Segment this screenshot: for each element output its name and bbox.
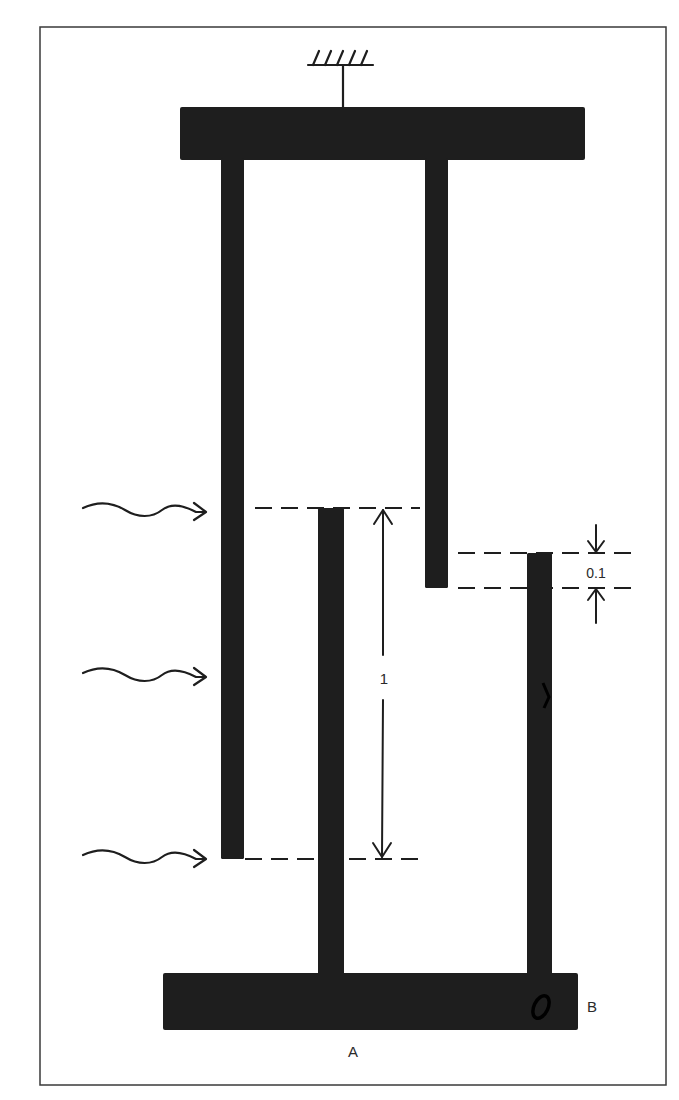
- point-b-label: B: [587, 998, 597, 1015]
- ground-support-icon: [308, 51, 373, 107]
- right-hanging-bar: [425, 158, 448, 588]
- right-upright-bar: [527, 553, 552, 977]
- figure-frame: [40, 27, 666, 1085]
- left-hanging-bar: [221, 158, 244, 859]
- wavy-arrow-icon: [83, 503, 206, 520]
- wavy-arrow-icon: [83, 850, 206, 867]
- wavy-arrow-icon: [83, 668, 206, 685]
- dimension-label-gap: 0.1: [586, 565, 606, 581]
- dimension-label-long: 1: [380, 670, 388, 687]
- structure-diagram: 1 0.1 A B: [0, 0, 679, 1100]
- bottom-plate: [163, 973, 578, 1030]
- heat-arrows: [83, 503, 206, 867]
- point-a-label: A: [348, 1043, 358, 1060]
- top-plate: [180, 107, 585, 160]
- middle-upright-bar: [318, 508, 344, 975]
